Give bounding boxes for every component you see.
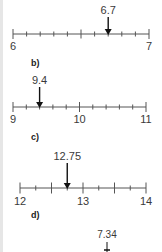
tick-label-min: 6 — [10, 40, 16, 52]
tick-label-mid: 13 — [77, 195, 89, 207]
number-line-b: 910119.4 — [10, 74, 152, 125]
marker-value-label: 12.75 — [53, 150, 81, 162]
tick-label-max: 14 — [140, 195, 152, 207]
marker-value-label: 9.4 — [32, 74, 47, 86]
number-line-d-marker: 7.34 — [97, 229, 117, 252]
tick-label-min: 9 — [10, 113, 16, 125]
marker-value-label: 7.34 — [97, 229, 117, 240]
tick-label-max: 11 — [140, 113, 151, 125]
number-line-c: 12131412.75 — [14, 150, 152, 207]
tick-label-mid: 10 — [73, 113, 85, 125]
marker-value-label: 6.7 — [101, 4, 116, 16]
tick-label-min: 12 — [14, 195, 26, 207]
number-line-a: 676.7 — [10, 4, 152, 52]
number-lines-diagram: 676.7 910119.4 12131412.75 7.34 — [0, 0, 162, 252]
tick-label-max: 7 — [146, 40, 152, 52]
